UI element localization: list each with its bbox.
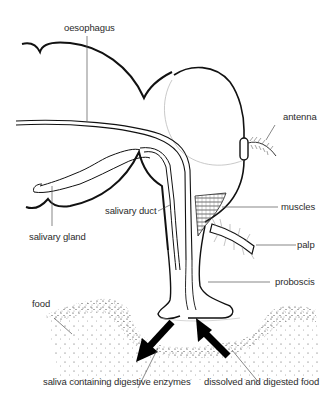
proboscis [158,226,240,321]
label-salivary-duct: salivary duct [105,205,157,216]
antenna [248,137,276,156]
label-food: food [32,298,50,309]
label-muscles: muscles [281,201,315,212]
thorax-outline [22,42,172,98]
label-dissolved-food: dissolved and digested food [204,376,319,387]
palp [210,218,254,259]
label-palp: palp [297,239,315,250]
label-saliva: saliva containing digestive enzymes [43,376,191,387]
label-antenna: antenna [283,111,317,122]
label-oesophagus: oesophagus [64,22,115,33]
label-salivary-gland: salivary gland [29,231,86,242]
food-surface [46,299,320,380]
label-proboscis: proboscis [275,276,315,287]
